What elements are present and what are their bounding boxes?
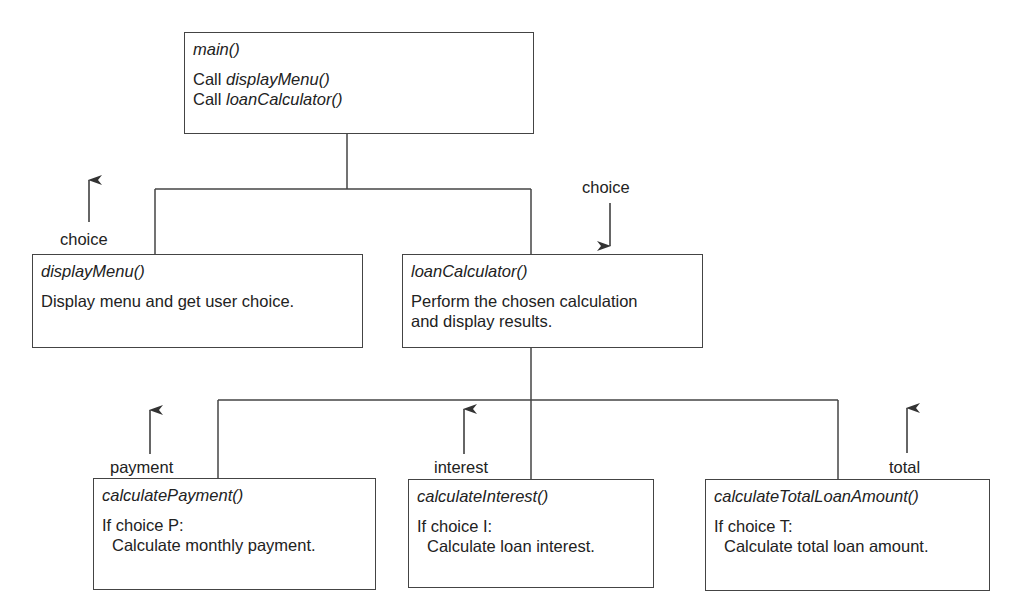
node-title: calculatePayment() xyxy=(102,485,367,505)
node-line: Call displayMenu() xyxy=(193,69,525,89)
node-line: Display menu and get user choice. xyxy=(41,291,354,311)
node-calculatePayment: calculatePayment() If choice P: Calculat… xyxy=(93,478,376,590)
node-line: and display results. xyxy=(411,311,694,331)
node-title: main() xyxy=(193,39,525,59)
node-line: If choice P: xyxy=(102,515,367,535)
flow-label-payment: payment xyxy=(110,457,173,477)
flow-label-choice-down: choice xyxy=(582,177,630,197)
call-target: displayMenu() xyxy=(226,70,330,88)
node-line: Calculate total loan amount. xyxy=(714,536,981,556)
node-line: If choice I: xyxy=(417,516,645,536)
node-line: Call loanCalculator() xyxy=(193,89,525,109)
node-line: Calculate loan interest. xyxy=(417,536,645,556)
node-title: calculateTotalLoanAmount() xyxy=(714,486,981,506)
node-displayMenu: displayMenu() Display menu and get user … xyxy=(32,254,363,348)
call-prefix: Call xyxy=(193,70,226,88)
flow-label-total: total xyxy=(889,457,920,477)
flow-label-choice-up: choice xyxy=(60,229,108,249)
node-title: displayMenu() xyxy=(41,261,354,281)
node-title: calculateInterest() xyxy=(417,486,645,506)
node-main: main() Call displayMenu() Call loanCalcu… xyxy=(184,32,534,134)
node-line: Perform the chosen calculation xyxy=(411,291,694,311)
node-calculateInterest: calculateInterest() If choice I: Calcula… xyxy=(408,479,654,588)
call-target: loanCalculator() xyxy=(226,90,342,108)
node-line: Calculate monthly payment. xyxy=(102,535,367,555)
node-line: If choice T: xyxy=(714,516,981,536)
call-prefix: Call xyxy=(193,90,226,108)
node-calculateTotalLoanAmount: calculateTotalLoanAmount() If choice T: … xyxy=(705,479,990,591)
node-loanCalculator: loanCalculator() Perform the chosen calc… xyxy=(402,254,703,348)
node-title: loanCalculator() xyxy=(411,261,694,281)
flow-label-interest: interest xyxy=(434,457,488,477)
